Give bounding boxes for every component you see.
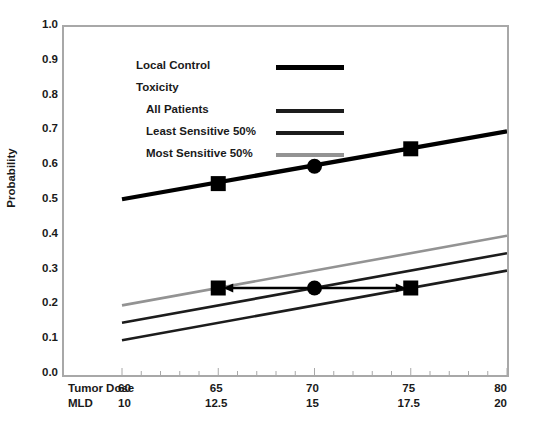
- legend-swatch-line: [276, 131, 344, 135]
- x-axis-tick-tumor-dose-0: 60: [118, 382, 162, 394]
- plot-frame: Local ControlToxicityAll PatientsLeast S…: [62, 25, 509, 377]
- y-axis-label: Probability: [5, 133, 17, 223]
- legend-label: Least Sensitive 50%: [146, 125, 256, 137]
- marker-square: [403, 281, 418, 296]
- legend-row-toxicity: Toxicity: [136, 78, 326, 100]
- y-axis-tick-0-1: 0.1: [26, 332, 58, 343]
- x-axis-tick-mld-3: 17.5: [387, 397, 431, 409]
- legend-label: Toxicity: [136, 81, 179, 93]
- legend-swatch-line: [276, 65, 344, 70]
- y-axis-tick-labels: 1.00.90.80.70.60.50.40.30.20.10.0: [20, 0, 58, 433]
- y-axis-tick-0-8: 0.8: [26, 89, 58, 100]
- y-axis-tick-0-9: 0.9: [26, 54, 58, 65]
- x-axis: Tumor Dose6065707580MLD1012.51517.520: [0, 382, 538, 422]
- x-axis-tick-mld-2: 15: [291, 397, 335, 409]
- legend-label: All Patients: [146, 103, 209, 115]
- marker-square: [403, 141, 418, 156]
- marker-square: [211, 176, 226, 191]
- legend-row-local-control: Local Control: [136, 56, 326, 78]
- chart-legend: Local ControlToxicityAll PatientsLeast S…: [136, 56, 326, 166]
- x-axis-tick-tumor-dose-2: 70: [291, 382, 335, 394]
- y-axis-tick-0-6: 0.6: [26, 158, 58, 169]
- x-axis-row-title: MLD: [68, 397, 93, 409]
- y-axis-tick-0-5: 0.5: [26, 193, 58, 204]
- y-axis-tick-0-0: 0.0: [26, 367, 58, 378]
- x-axis-tick-tumor-dose-3: 75: [387, 382, 431, 394]
- y-axis-tick-1-0: 1.0: [26, 19, 58, 30]
- legend-row-least-sensitive-50: Least Sensitive 50%: [136, 122, 326, 144]
- marker-circle: [307, 281, 322, 296]
- x-axis-tick-tumor-dose-4: 80: [463, 382, 507, 394]
- legend-row-all-patients: All Patients: [136, 100, 326, 122]
- legend-row-most-sensitive-50: Most Sensitive 50%: [136, 144, 326, 166]
- y-axis-tick-0-4: 0.4: [26, 228, 58, 239]
- chart-root: Probability 1.00.90.80.70.60.50.40.30.20…: [0, 0, 538, 433]
- legend-swatch-line: [276, 153, 344, 157]
- legend-label: Local Control: [136, 59, 210, 71]
- x-axis-tick-mld-1: 12.5: [194, 397, 238, 409]
- x-axis-minor-ticks: [122, 368, 507, 375]
- marker-square: [211, 281, 226, 296]
- legend-swatch-line: [276, 109, 344, 113]
- legend-label: Most Sensitive 50%: [146, 147, 253, 159]
- x-axis-row-mld: MLD1012.51517.520: [0, 397, 538, 412]
- y-axis-tick-0-2: 0.2: [26, 297, 58, 308]
- x-axis-tick-tumor-dose-1: 65: [194, 382, 238, 394]
- y-axis-tick-0-7: 0.7: [26, 123, 58, 134]
- x-axis-tick-mld-0: 10: [118, 397, 162, 409]
- x-axis-row-tumor-dose: Tumor Dose6065707580: [0, 382, 538, 397]
- y-axis-tick-0-3: 0.3: [26, 263, 58, 274]
- x-axis-tick-mld-4: 20: [463, 397, 507, 409]
